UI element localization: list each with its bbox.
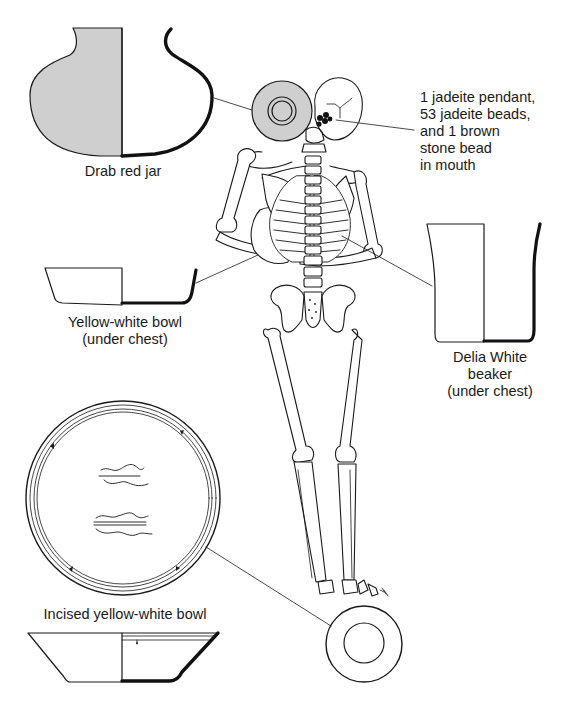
label-delia-white-beaker: Delia White beaker (under chest)	[430, 349, 550, 400]
incised-bowl-profile	[28, 633, 218, 682]
jar-plan-view	[252, 81, 312, 141]
label-line: stone bead	[420, 140, 570, 157]
label-line: and 1 brown	[420, 123, 570, 140]
yellow-white-bowl-drawing	[45, 268, 196, 305]
leader-line-jar	[214, 98, 252, 110]
label-drab-red-jar: Drab red jar	[58, 163, 188, 180]
label-line: (under chest)	[430, 383, 550, 400]
label-line: Delia White	[430, 349, 550, 366]
delia-white-beaker-drawing	[427, 224, 540, 342]
incised-bowl-at-feet	[326, 606, 402, 682]
incised-bowl-plan-view	[26, 401, 220, 595]
label-line: 53 jadeite beads,	[420, 106, 570, 123]
label-incised-yellow-white-bowl: Incised yellow-white bowl	[20, 606, 230, 623]
label-line: 1 jadeite pendant,	[420, 89, 570, 106]
label-line: (under chest)	[40, 331, 210, 348]
label-jadeite-ornaments: 1 jadeite pendant, 53 jadeite beads, and…	[420, 89, 570, 174]
label-line: in mouth	[420, 157, 570, 174]
label-line: beaker	[430, 366, 550, 383]
label-line: Yellow-white bowl	[40, 314, 210, 331]
skeleton-drawing	[216, 78, 432, 596]
drab-red-jar-drawing	[30, 28, 212, 156]
label-yellow-white-bowl: Yellow-white bowl (under chest)	[40, 314, 210, 348]
leader-line-bowl	[196, 255, 258, 283]
